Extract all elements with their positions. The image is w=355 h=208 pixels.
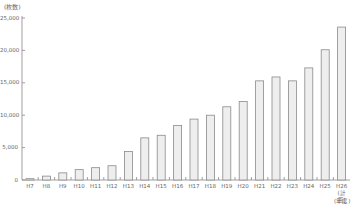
bar xyxy=(206,115,214,180)
x-tick-label: H24 xyxy=(301,183,317,190)
bar xyxy=(305,68,313,180)
y-tick-label: 0 xyxy=(0,177,18,183)
bar-chart: (枚数) 05,00010,00015,00020,00025,000 H7H8… xyxy=(0,0,355,208)
bar xyxy=(239,102,247,180)
bar xyxy=(174,126,182,180)
bar xyxy=(42,176,50,180)
plot-area xyxy=(0,0,355,208)
bar xyxy=(190,119,198,180)
x-tick-label: H9 xyxy=(55,183,71,190)
x-tick-label: H17 xyxy=(186,183,202,190)
bar xyxy=(108,166,116,180)
bar xyxy=(288,81,296,180)
x-axis-unit-label: (年度) xyxy=(334,197,350,205)
bar xyxy=(223,107,231,180)
x-tick-label: H7 xyxy=(22,183,38,190)
x-tick-label: H21 xyxy=(252,183,268,190)
x-tick-label: H18 xyxy=(202,183,218,190)
bar xyxy=(321,50,329,180)
x-tick-label: H13 xyxy=(120,183,136,190)
bar xyxy=(59,173,67,180)
x-tick-label: H20 xyxy=(235,183,251,190)
x-tick-label: H19 xyxy=(219,183,235,190)
y-tick-label: 10,000 xyxy=(0,112,18,118)
x-tick-label: H12 xyxy=(104,183,120,190)
y-tick-label: 15,000 xyxy=(0,79,18,85)
x-tick-label: H11 xyxy=(88,183,104,190)
x-tick-label: H15 xyxy=(153,183,169,190)
bar xyxy=(256,81,264,180)
x-tick-label: H22 xyxy=(268,183,284,190)
x-tick-label: H10 xyxy=(71,183,87,190)
bar xyxy=(124,151,132,180)
bar xyxy=(92,168,100,180)
bar xyxy=(141,138,149,180)
x-tick-label: H8 xyxy=(38,183,54,190)
y-tick-label: 5,000 xyxy=(0,144,18,150)
bar xyxy=(272,77,280,180)
x-tick-label: H14 xyxy=(137,183,153,190)
bar xyxy=(26,179,34,180)
x-tick-label: H16 xyxy=(170,183,186,190)
x-tick-label: H25 xyxy=(317,183,333,190)
x-tick-label: H23 xyxy=(284,183,300,190)
bar xyxy=(157,135,165,180)
bar xyxy=(75,170,83,180)
y-tick-label: 20,000 xyxy=(0,47,18,53)
y-tick-label: 25,000 xyxy=(0,15,18,21)
bar xyxy=(338,27,346,180)
